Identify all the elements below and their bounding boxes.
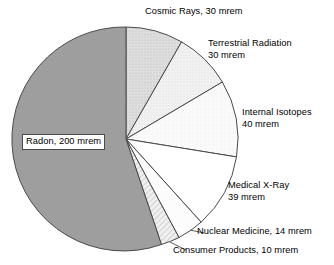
label-nuclear-medicine: Nuclear Medicine, 14 mrem: [197, 226, 312, 238]
label-medical-xray-line2: 39 mrem: [228, 192, 265, 202]
label-radon: Radon, 200 mrem: [22, 134, 105, 150]
label-terrestrial-radiation: Terrestrial Radiation 30 mrem: [208, 38, 332, 61]
label-internal-isotopes-line2: 40 mrem: [242, 119, 279, 129]
label-internal-isotopes-line1: Internal Isotopes: [242, 107, 312, 117]
label-consumer-products: Consumer Products, 10 mrem: [173, 245, 298, 257]
pie-chart-figure: Cosmic Rays, 30 mrem Terrestrial Radiati…: [0, 0, 334, 265]
label-terrestrial-radiation-line2: 30 mrem: [208, 50, 245, 60]
label-internal-isotopes: Internal Isotopes 40 mrem: [242, 107, 334, 130]
label-medical-xray-line1: Medical X-Ray: [228, 180, 289, 190]
label-terrestrial-radiation-line1: Terrestrial Radiation: [208, 38, 292, 48]
label-medical-xray: Medical X-Ray 39 mrem: [228, 180, 332, 203]
label-cosmic-rays: Cosmic Rays, 30 mrem: [145, 6, 243, 18]
